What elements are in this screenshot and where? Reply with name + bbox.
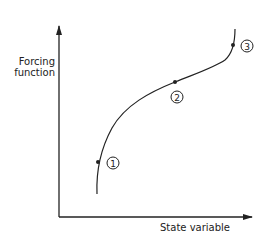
point-1-marker	[96, 160, 100, 164]
point-1: 1	[96, 157, 119, 169]
point-3-marker	[231, 43, 235, 47]
response-curve	[97, 29, 235, 194]
point-2-label: 2	[174, 93, 180, 103]
x-axis-label: State variable	[160, 222, 230, 233]
y-axis-label-line2: function	[14, 67, 55, 78]
point-3-label: 3	[244, 42, 250, 52]
y-axis-label-line1: Forcing	[19, 56, 55, 67]
point-2-marker	[173, 80, 177, 84]
diagram-canvas: Forcing function State variable 1 2 3	[0, 0, 269, 239]
point-1-label: 1	[110, 159, 116, 169]
